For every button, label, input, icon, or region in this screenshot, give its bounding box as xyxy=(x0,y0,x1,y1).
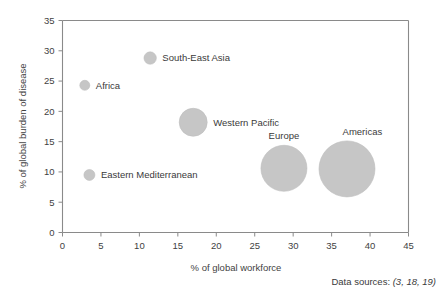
data-bubble xyxy=(179,108,207,136)
bubble-chart-figure: 05101520253035 051015202530354045 Easter… xyxy=(0,0,438,291)
data-sources-refs: (3, 18, 19) xyxy=(393,276,436,287)
x-tick-label: 15 xyxy=(173,240,184,251)
y-tick-label: 0 xyxy=(49,227,54,238)
y-tick-label: 25 xyxy=(44,75,55,86)
bubble-label: South-East Asia xyxy=(162,52,230,63)
y-tick-label: 20 xyxy=(44,106,55,117)
data-bubble xyxy=(144,52,156,64)
x-tick-label: 35 xyxy=(326,240,337,251)
x-tick-label: 40 xyxy=(365,240,376,251)
bubble-label: Eastern Mediterranean xyxy=(101,169,198,180)
bubble-label: Africa xyxy=(96,80,121,91)
x-tick-label: 5 xyxy=(98,240,103,251)
x-tick-label: 20 xyxy=(211,240,222,251)
x-axis-ticks: 051015202530354045 xyxy=(60,233,414,251)
data-bubble xyxy=(261,145,307,191)
y-tick-label: 30 xyxy=(44,45,55,56)
data-bubble xyxy=(84,169,95,180)
y-tick-label: 15 xyxy=(44,136,55,147)
x-tick-label: 25 xyxy=(249,240,260,251)
bubble-label: Western Pacific xyxy=(213,117,279,128)
bubble-label: Americas xyxy=(343,126,383,137)
x-tick-label: 45 xyxy=(403,240,414,251)
x-axis-title: % of global workforce xyxy=(191,262,282,273)
data-bubble xyxy=(80,80,90,90)
y-axis-title: % of global burden of disease xyxy=(17,63,28,188)
x-tick-label: 30 xyxy=(288,240,299,251)
chart-canvas: 05101520253035 051015202530354045 Easter… xyxy=(0,0,438,291)
y-tick-label: 5 xyxy=(49,197,54,208)
bubble-label: Europe xyxy=(269,130,300,141)
x-tick-label: 10 xyxy=(134,240,145,251)
data-bubbles: Eastern MediterraneanAfricaSouth-East As… xyxy=(80,52,383,197)
data-bubble xyxy=(319,141,375,197)
y-axis-ticks: 05101520253035 xyxy=(44,15,63,238)
y-tick-label: 10 xyxy=(44,166,55,177)
data-sources-prefix: Data sources: xyxy=(331,276,392,287)
x-tick-label: 0 xyxy=(60,240,65,251)
data-sources-note: Data sources: (3, 18, 19) xyxy=(331,276,436,287)
y-tick-label: 35 xyxy=(44,15,55,26)
